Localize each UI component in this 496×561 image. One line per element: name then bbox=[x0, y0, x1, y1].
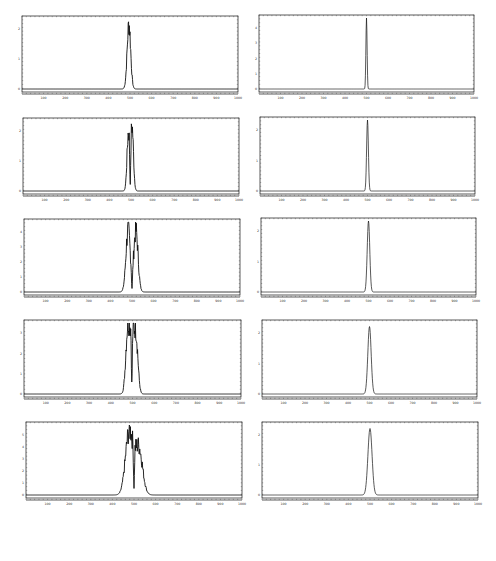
y-tick-label: 3 bbox=[22, 457, 24, 461]
x-tick-label: 1000 bbox=[235, 198, 243, 202]
data-series-line bbox=[26, 425, 242, 495]
chart-panel-right-1: 100200300400500600700800900100001234 bbox=[251, 15, 474, 104]
y-tick-label: 4 bbox=[22, 445, 24, 449]
line-chart: 100200300400500600700800900100001234 bbox=[251, 15, 474, 104]
y-tick-label: 0 bbox=[257, 290, 259, 294]
x-tick-label: 100 bbox=[278, 198, 284, 202]
y-tick-label: 1 bbox=[18, 57, 20, 61]
line-chart: 10020030040050060070080090010000123 bbox=[16, 320, 241, 409]
y-tick-label: 0 bbox=[256, 189, 258, 193]
x-tick-label: 700 bbox=[171, 198, 177, 202]
x-tick-label: 200 bbox=[66, 502, 72, 506]
x-tick-label: 600 bbox=[150, 198, 156, 202]
data-series-line bbox=[259, 18, 474, 89]
data-series-line bbox=[24, 222, 240, 292]
x-tick-label: 600 bbox=[388, 401, 394, 405]
x-tick-label: 500 bbox=[367, 502, 373, 506]
x-tick-label: 900 bbox=[453, 502, 459, 506]
x-tick-label: 1000 bbox=[474, 502, 482, 506]
x-tick-label: 300 bbox=[324, 502, 330, 506]
y-tick-label: 0 bbox=[22, 493, 24, 497]
x-tick-label: 500 bbox=[366, 401, 372, 405]
x-tick-label: 100 bbox=[43, 299, 49, 303]
x-tick-label: 100 bbox=[281, 502, 287, 506]
chart-panel-left-1: 1002003004005006007008009001000012 bbox=[14, 16, 238, 104]
x-tick-label: 500 bbox=[129, 299, 135, 303]
x-tick-label: 600 bbox=[151, 401, 157, 405]
x-tick-label: 700 bbox=[408, 299, 414, 303]
x-tick-label: 500 bbox=[364, 198, 370, 202]
x-tick-label: 500 bbox=[365, 299, 371, 303]
x-tick-label: 700 bbox=[406, 96, 412, 100]
x-tick-label: 800 bbox=[193, 198, 199, 202]
x-tick-label: 300 bbox=[320, 96, 326, 100]
plot-frame bbox=[262, 422, 478, 498]
line-chart: 1002003004005006007008009001000012345 bbox=[18, 422, 242, 510]
y-tick-label: 0 bbox=[255, 87, 257, 91]
x-tick-label: 200 bbox=[300, 198, 306, 202]
x-tick-label: 700 bbox=[407, 198, 413, 202]
x-tick-label: 700 bbox=[174, 502, 180, 506]
chart-panel-left-3: 100200300400500600700800900100001234 bbox=[16, 219, 240, 307]
y-tick-label: 0 bbox=[20, 290, 22, 294]
y-tick-label: 1 bbox=[257, 260, 259, 264]
x-tick-label: 600 bbox=[151, 299, 157, 303]
x-tick-label: 300 bbox=[88, 502, 94, 506]
y-tick-label: 0 bbox=[18, 87, 20, 91]
x-tick-label: 900 bbox=[452, 401, 458, 405]
x-tick-label: 1000 bbox=[234, 96, 242, 100]
y-tick-label: 4 bbox=[255, 26, 257, 30]
x-tick-label: 300 bbox=[84, 96, 90, 100]
x-tick-label: 100 bbox=[43, 401, 49, 405]
data-series-line bbox=[22, 22, 238, 89]
x-tick-label: 800 bbox=[432, 502, 438, 506]
y-tick-label: 0 bbox=[20, 392, 22, 396]
x-tick-label: 400 bbox=[105, 96, 111, 100]
x-tick-label: 300 bbox=[85, 198, 91, 202]
x-tick-label: 200 bbox=[299, 96, 305, 100]
x-tick-label: 600 bbox=[385, 96, 391, 100]
x-tick-label: 200 bbox=[301, 299, 307, 303]
x-tick-label: 400 bbox=[345, 502, 351, 506]
x-tick-label: 100 bbox=[277, 96, 283, 100]
x-tick-label: 100 bbox=[42, 198, 48, 202]
x-tick-label: 200 bbox=[64, 299, 70, 303]
x-tick-label: 200 bbox=[302, 502, 308, 506]
x-tick-label: 700 bbox=[410, 502, 416, 506]
chart-panel-left-5: 1002003004005006007008009001000012345 bbox=[18, 422, 242, 510]
x-tick-label: 300 bbox=[86, 401, 92, 405]
x-tick-label: 800 bbox=[431, 401, 437, 405]
x-tick-label: 1000 bbox=[236, 299, 244, 303]
x-tick-label: 200 bbox=[64, 401, 70, 405]
x-tick-label: 400 bbox=[342, 96, 348, 100]
x-tick-label: 700 bbox=[170, 96, 176, 100]
y-tick-label: 5 bbox=[22, 433, 24, 437]
data-series-line bbox=[262, 327, 477, 394]
x-tick-label: 200 bbox=[302, 401, 308, 405]
x-tick-label: 700 bbox=[173, 401, 179, 405]
x-tick-label: 100 bbox=[41, 96, 47, 100]
x-tick-label: 300 bbox=[86, 299, 92, 303]
x-tick-label: 100 bbox=[280, 401, 286, 405]
x-tick-label: 1000 bbox=[237, 401, 245, 405]
x-tick-label: 800 bbox=[428, 96, 434, 100]
x-tick-label: 900 bbox=[216, 401, 222, 405]
x-tick-label: 500 bbox=[128, 198, 134, 202]
chart-panel-right-4: 1002003004005006007008009001000012 bbox=[254, 320, 477, 409]
y-tick-label: 2 bbox=[255, 57, 257, 61]
plot-frame bbox=[261, 218, 476, 295]
x-tick-label: 900 bbox=[217, 502, 223, 506]
y-tick-label: 1 bbox=[20, 372, 22, 376]
x-tick-label: 500 bbox=[127, 96, 133, 100]
x-tick-label: 300 bbox=[323, 401, 329, 405]
x-tick-label: 600 bbox=[386, 198, 392, 202]
x-tick-label: 800 bbox=[194, 299, 200, 303]
x-tick-label: 1000 bbox=[470, 96, 478, 100]
plot-frame bbox=[262, 320, 477, 397]
y-tick-label: 2 bbox=[256, 128, 258, 132]
y-tick-label: 0 bbox=[258, 493, 260, 497]
chart-panel-left-2: 1002003004005006007008009001000012 bbox=[15, 118, 239, 206]
y-tick-label: 1 bbox=[258, 362, 260, 366]
x-tick-label: 800 bbox=[430, 299, 436, 303]
x-tick-label: 700 bbox=[172, 299, 178, 303]
